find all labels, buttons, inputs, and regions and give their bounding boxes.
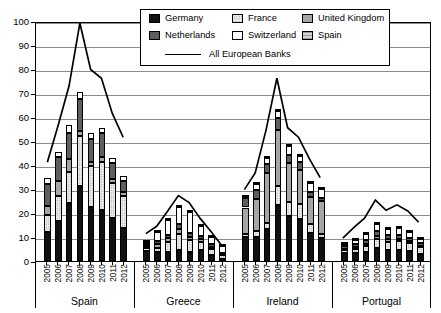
bar-segment-united-kingdom <box>297 170 304 205</box>
bar-segment-germany <box>242 237 249 261</box>
stacked-bar <box>297 155 304 261</box>
legend-swatch-netherlands <box>149 31 160 40</box>
bar-segment-united-kingdom <box>253 199 260 231</box>
x-tick <box>321 262 322 265</box>
bar-segment-france <box>374 239 381 248</box>
bar-segment-netherlands <box>66 133 73 159</box>
bar-segment-netherlands <box>318 198 325 201</box>
bar-segment-united-kingdom <box>176 229 183 234</box>
bar-segment-france <box>143 248 150 251</box>
stacked-bar <box>55 152 62 261</box>
bar-segment-france <box>297 204 304 219</box>
x-tick-label-greece-2011: 2011 <box>207 264 217 282</box>
x-tick <box>376 262 377 265</box>
bar-segment-france <box>120 196 127 227</box>
bar-segment-netherlands <box>275 118 282 129</box>
bar-segment-united-kingdom <box>242 208 249 234</box>
gridline <box>36 95 430 96</box>
x-tick <box>156 262 157 265</box>
bar-segment-united-kingdom <box>307 197 314 224</box>
bar-segment-united-kingdom <box>286 163 293 202</box>
bar-segment-germany <box>318 238 325 261</box>
bar-segment-united-kingdom <box>374 236 381 239</box>
bar-segment-switzerland <box>44 178 51 184</box>
gridline <box>36 191 430 192</box>
bar-segment-france <box>176 234 183 250</box>
bar-segment-switzerland <box>318 189 325 198</box>
x-tick-label-ireland-2010: 2010 <box>295 264 305 282</box>
bar-segment-spain <box>242 195 249 197</box>
stacked-bar <box>143 241 150 261</box>
stacked-bar <box>77 92 84 261</box>
x-tick <box>244 262 245 265</box>
legend-swatch-france <box>232 14 243 23</box>
stacked-bar <box>219 245 226 261</box>
bar-segment-france <box>66 172 73 203</box>
bar-segment-united-kingdom <box>264 173 271 223</box>
x-tick <box>101 262 102 265</box>
x-tick <box>189 262 190 265</box>
bar-segment-france <box>165 242 172 252</box>
bar-segment-germany <box>286 216 293 261</box>
bar-segment-switzerland <box>88 133 95 139</box>
bar-segment-france <box>242 234 249 237</box>
stacked-bar <box>406 231 413 261</box>
bar-segment-netherlands <box>374 231 381 236</box>
bar-segment-netherlands <box>208 244 215 246</box>
bar-segment-netherlands <box>154 241 161 244</box>
stacked-bar <box>88 133 95 261</box>
bar-segment-united-kingdom <box>406 241 413 243</box>
bar-segment-germany <box>275 205 282 261</box>
bar-segment-spain <box>275 109 282 111</box>
bar-segment-netherlands <box>187 233 194 237</box>
x-tick-label-ireland-2005: 2005 <box>240 264 250 282</box>
y-tick-label: 40 <box>0 161 29 170</box>
bar-segment-switzerland <box>352 240 359 244</box>
bar-segment-switzerland <box>176 207 183 224</box>
bar-segment-united-kingdom <box>143 246 150 248</box>
y-tick-label: 60 <box>0 113 29 122</box>
bar-segment-france <box>198 242 205 250</box>
stacked-bar <box>318 188 325 261</box>
y-tick-label: 30 <box>0 185 29 194</box>
bar-segment-netherlands <box>286 155 293 164</box>
x-tick-label-ireland-2012: 2012 <box>317 264 327 282</box>
chart-container: 0102030405060708090100 20052006200720082… <box>0 0 441 313</box>
legend-item-spain: Spain <box>302 30 342 40</box>
stacked-bar <box>44 178 51 261</box>
bar-segment-switzerland <box>307 183 314 193</box>
bar-segment-netherlands <box>385 235 392 239</box>
stacked-bar <box>154 231 161 261</box>
bar-segment-netherlands <box>352 244 359 247</box>
x-tick <box>123 262 124 265</box>
legend-line-swatch <box>165 54 201 55</box>
legend-item-all-european-banks: All European Banks <box>165 49 291 59</box>
bar-segment-netherlands <box>264 164 271 174</box>
bar-segment-netherlands <box>120 181 127 192</box>
bar-segment-switzerland <box>120 176 127 181</box>
x-tick <box>343 262 344 265</box>
legend-swatch-germany <box>149 14 160 23</box>
bar-segment-switzerland <box>396 228 403 235</box>
gridline <box>36 215 430 216</box>
stacked-bar <box>352 239 359 261</box>
x-axis: 20052006200720082009201020112012Spain200… <box>35 262 431 313</box>
y-tick-label: 90 <box>0 41 29 50</box>
bar-segment-germany <box>374 248 381 261</box>
bar-segment-switzerland <box>264 158 271 164</box>
bar-segment-france <box>385 242 392 250</box>
bar-segment-united-kingdom <box>77 131 84 137</box>
x-tick-label-portugal-2012: 2012 <box>416 264 426 282</box>
bar-segment-switzerland <box>99 128 106 133</box>
x-tick <box>255 262 256 265</box>
x-tick-label-portugal-2006: 2006 <box>350 264 360 282</box>
bar-segment-spain <box>352 238 359 240</box>
bar-segment-france <box>264 223 271 229</box>
bar-segment-spain <box>406 230 413 232</box>
stacked-bar <box>208 236 215 261</box>
x-tick <box>222 262 223 265</box>
bar-segment-switzerland <box>66 125 73 133</box>
group-separator <box>134 262 135 308</box>
bar-segment-netherlands <box>341 246 348 248</box>
bar-segment-spain <box>154 230 161 232</box>
